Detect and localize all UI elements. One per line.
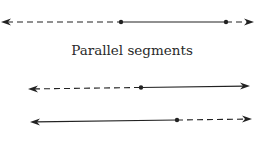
dashed-segment [34, 87, 141, 88]
endpoint-dot [119, 20, 123, 24]
right-arrowhead-icon [244, 19, 254, 26]
diagram-canvas: Parallel segments [0, 0, 264, 143]
parallel-segments-drawing [0, 0, 264, 143]
endpoint-dot [224, 20, 228, 24]
bottom-line [30, 116, 252, 126]
solid-segment [36, 120, 177, 122]
caption-label: Parallel segments [0, 42, 264, 58]
endpoint-dot [175, 118, 179, 122]
right-arrowhead-icon [242, 116, 252, 123]
middle-line [28, 83, 250, 93]
top-line [1, 19, 254, 26]
solid-segment [141, 86, 244, 87]
dashed-segment [177, 119, 246, 120]
endpoint-dot [139, 85, 143, 89]
